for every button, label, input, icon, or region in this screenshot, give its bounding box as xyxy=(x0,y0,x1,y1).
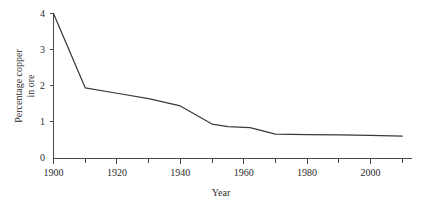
y-tick-labels: 4 3 2 1 0 xyxy=(40,8,45,163)
y-tick-label-3: 3 xyxy=(40,44,45,55)
y-tick-label-2: 2 xyxy=(40,80,45,91)
x-axis-title: Year xyxy=(212,187,231,198)
x-axis xyxy=(54,159,413,164)
y-axis-title: Percentage copper in ore xyxy=(13,49,36,123)
x-tick-label-1940: 1940 xyxy=(170,167,190,178)
x-tick-label-1960: 1960 xyxy=(234,167,254,178)
y-axis-title-line1: Percentage copper xyxy=(13,49,24,123)
copper-percentage-line xyxy=(54,14,403,137)
y-axis xyxy=(50,13,54,159)
x-tick-label-1980: 1980 xyxy=(297,167,317,178)
y-tick-label-4: 4 xyxy=(40,8,45,19)
x-tick-label-1920: 1920 xyxy=(107,167,127,178)
chart-canvas: 4 3 2 1 0 1900 1920 1940 1960 19 xyxy=(0,0,427,209)
x-tick-labels: 1900 1920 1940 1960 1980 2000 xyxy=(44,167,381,178)
y-tick-label-1: 1 xyxy=(40,116,45,127)
y-axis-title-line2: in ore xyxy=(25,74,36,98)
x-tick-label-1900: 1900 xyxy=(44,167,64,178)
y-tick-label-0: 0 xyxy=(40,152,45,163)
x-tick-label-2000: 2000 xyxy=(361,167,381,178)
copper-ore-grade-chart: 4 3 2 1 0 1900 1920 1940 1960 19 xyxy=(0,0,427,209)
